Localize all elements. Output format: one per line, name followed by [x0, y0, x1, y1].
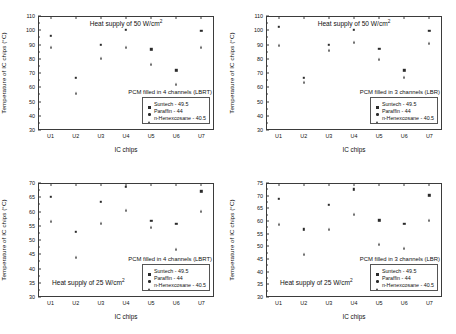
legend-item[interactable]: n-Henexcosane - 40.5: [145, 114, 206, 121]
plot-title: Heat supply of 50 W/cm2: [90, 20, 163, 27]
legend-item[interactable]: n-Henexcosane - 40.5: [145, 281, 206, 288]
y-tick-label: 55: [257, 231, 263, 237]
x-tick-label: U3: [97, 133, 104, 139]
y-tick-mark: [266, 259, 269, 260]
data-point: [100, 221, 102, 224]
legend-box: Suntech - 49.5Paraffin - 44n-Henexcosane…: [142, 264, 210, 291]
y-tick-minor: [38, 80, 40, 81]
data-point: [303, 228, 305, 230]
x-tick-mark: [429, 16, 430, 19]
heat-supply-note: Heat supply of 25 W/cm2: [52, 279, 125, 286]
y-axis-title: Temperature of IC chips (°C): [0, 16, 10, 130]
legend-label: Paraffin - 44: [154, 108, 183, 114]
plot-area: 30405060708090100110U1U2U3U4U5U6U7Heat s…: [38, 16, 214, 130]
legend-item[interactable]: Suntech - 49.5: [373, 267, 434, 274]
x-tick-mark: [151, 16, 152, 19]
y-tick-mark: [38, 16, 41, 17]
y-tick-mark: [38, 87, 41, 88]
y-tick-mark: [38, 268, 41, 269]
legend-item[interactable]: n-Henexcosane - 40.5: [373, 114, 434, 121]
y-tick-mark: [266, 195, 269, 196]
y-tick-label: 50: [29, 99, 35, 105]
chart-panel-bottom-left: Temperature of IC chips (°C)IC chips3035…: [0, 167, 228, 334]
y-tick-minor: [266, 37, 268, 38]
x-tick-mark: [176, 16, 177, 19]
y-tick-minor: [266, 122, 268, 123]
y-tick-minor: [38, 108, 40, 109]
legend-item[interactable]: Suntech - 49.5: [145, 267, 206, 274]
y-tick-mark: [38, 240, 41, 241]
data-point: [100, 44, 102, 46]
x-tick-mark: [303, 16, 304, 19]
legend-marker-triangle: [376, 288, 378, 290]
y-tick-mark: [266, 284, 269, 285]
x-tick-mark: [303, 183, 304, 186]
y-tick-minor: [266, 23, 268, 24]
y-tick-mark: [38, 44, 41, 45]
legend-item[interactable]: Suntech - 49.5: [145, 100, 206, 107]
x-tick-label: U3: [325, 133, 332, 139]
data-point: [49, 215, 52, 218]
y-tick-mark: [266, 16, 269, 17]
data-point: [175, 244, 178, 247]
y-tick-mark: [38, 73, 41, 74]
x-tick-label: U4: [351, 133, 358, 139]
legend-item[interactable]: Paraffin - 44: [373, 274, 434, 281]
y-tick-mark: [38, 211, 41, 212]
legend-box: Suntech - 49.5Paraffin - 44n-Henexcosane…: [142, 97, 210, 124]
y-tick-minor: [266, 278, 268, 279]
x-tick-mark: [328, 183, 329, 186]
legend-item[interactable]: Paraffin - 44: [145, 274, 206, 281]
y-tick-label: 40: [29, 113, 35, 119]
plot-title: Heat supply of 50 W/cm2: [318, 20, 391, 27]
data-point: [200, 205, 203, 208]
y-tick-minor: [38, 23, 40, 24]
x-axis-title: IC chips: [38, 146, 214, 153]
data-point: [125, 46, 127, 49]
y-tick-minor: [38, 122, 40, 123]
x-tick-label: U2: [300, 133, 307, 139]
x-tick-label: U6: [173, 300, 180, 306]
data-point: [403, 247, 405, 250]
y-tick-minor: [266, 202, 268, 203]
y-tick-mark: [38, 197, 41, 198]
legend-marker-triangle: [376, 121, 378, 123]
x-tick-label: U7: [198, 133, 205, 139]
data-point: [150, 48, 152, 50]
legend-label: Paraffin - 44: [154, 275, 183, 281]
y-tick-minor: [38, 247, 40, 248]
data-point: [428, 204, 431, 207]
y-tick-label: 90: [29, 42, 35, 48]
data-point: [50, 46, 52, 49]
legend-label: n-Henexcosane - 40.5: [382, 115, 434, 121]
data-point: [278, 222, 280, 225]
y-tick-label: 80: [257, 56, 263, 62]
y-tick-label: 75: [257, 180, 263, 186]
data-point: [75, 77, 77, 79]
y-tick-minor: [38, 218, 40, 219]
y-tick-mark: [266, 115, 269, 116]
y-tick-mark: [38, 254, 41, 255]
legend-item[interactable]: Suntech - 49.5: [373, 100, 434, 107]
x-tick-label: U4: [123, 133, 130, 139]
legend-item[interactable]: n-Henexcosane - 40.5: [373, 281, 434, 288]
y-tick-mark: [38, 130, 41, 131]
data-point: [175, 82, 177, 85]
legend-item[interactable]: Paraffin - 44: [145, 107, 206, 114]
y-tick-label: 65: [257, 205, 263, 211]
data-point: [277, 198, 279, 200]
y-tick-label: 55: [29, 223, 35, 229]
data-point: [50, 219, 52, 222]
x-tick-label: U5: [148, 133, 155, 139]
x-tick-mark: [201, 16, 202, 19]
legend-marker-cell: [145, 109, 154, 127]
x-tick-label: U2: [72, 133, 79, 139]
legend-item[interactable]: Paraffin - 44: [373, 107, 434, 114]
data-point: [150, 225, 152, 228]
legend-label: Suntech - 49.5: [154, 268, 188, 274]
data-point: [125, 208, 127, 211]
y-tick-mark: [266, 221, 269, 222]
legend-box: Suntech - 49.5Paraffin - 44n-Henexcosane…: [370, 264, 438, 291]
y-tick-label: 50: [257, 99, 263, 105]
data-point: [75, 231, 77, 233]
